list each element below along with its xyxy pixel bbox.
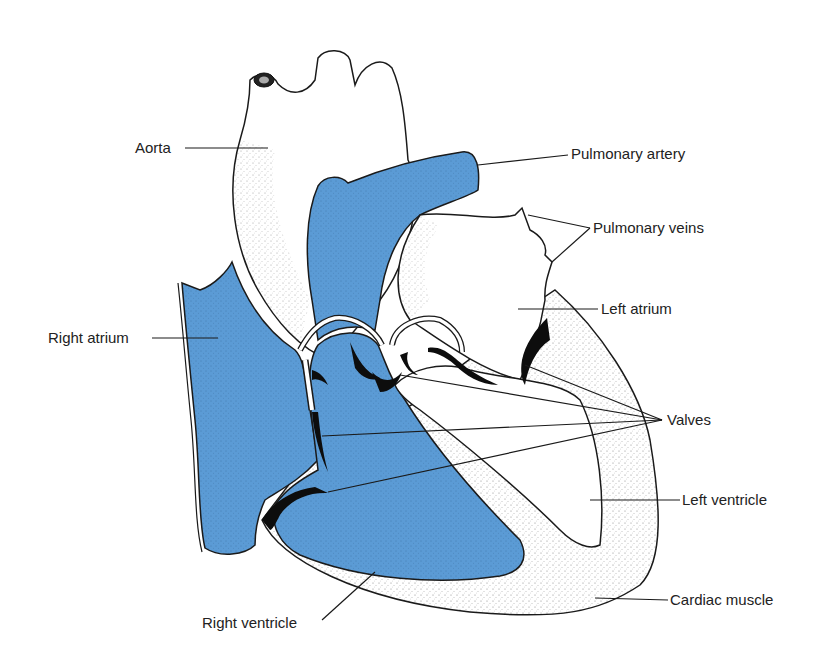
- label-cardiac-muscle: Cardiac muscle: [670, 591, 773, 609]
- label-right-ventricle: Right ventricle: [202, 614, 297, 632]
- label-left-ventricle: Left ventricle: [682, 491, 767, 509]
- heart-diagram: Aorta Pulmonary artery Pulmonary veins L…: [0, 0, 830, 663]
- label-pulmonary-veins: Pulmonary veins: [593, 219, 704, 237]
- label-left-atrium: Left atrium: [601, 300, 672, 318]
- label-right-atrium: Right atrium: [48, 329, 129, 347]
- label-pulmonary-artery: Pulmonary artery: [571, 145, 685, 163]
- label-valves: Valves: [667, 411, 711, 429]
- label-aorta: Aorta: [135, 139, 171, 157]
